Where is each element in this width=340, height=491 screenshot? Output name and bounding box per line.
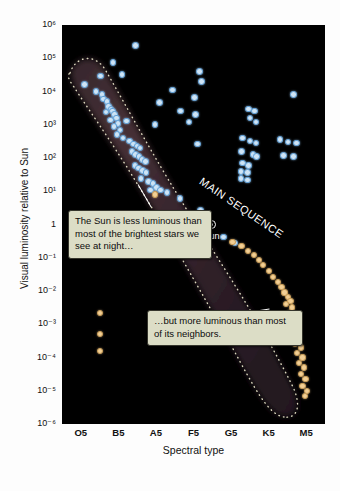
y-tick-1: 10¹ (16, 186, 56, 195)
star-point (245, 162, 252, 169)
star-point (290, 153, 297, 160)
star-point (290, 91, 297, 98)
star-point (229, 239, 235, 245)
x-axis-title: Spectral type (62, 444, 325, 456)
star-point (302, 376, 308, 382)
star-point (266, 268, 272, 274)
star-point (198, 78, 205, 85)
star-point (253, 153, 260, 160)
y-tick-3: 10³ (16, 120, 56, 129)
star-point (220, 234, 227, 241)
y-tick--6: 10⁻⁶ (16, 419, 56, 428)
star-point (132, 42, 139, 49)
star-point (123, 118, 130, 125)
y-tick--3: 10⁻³ (16, 319, 56, 328)
star-point (196, 68, 203, 75)
y-tick-6: 10⁶ (16, 20, 56, 29)
star-point (239, 135, 246, 142)
callout-sun-less-luminous: The Sun is less luminous than most of th… (68, 210, 212, 259)
star-point (302, 393, 308, 399)
star-point (138, 175, 145, 182)
y-tick--2: 10⁻² (16, 286, 56, 295)
hr-diagram-figure: Visual luminosity relative to Sun 10⁶10⁵… (0, 0, 340, 491)
star-point (110, 59, 117, 66)
x-tick-a5: A5 (136, 427, 176, 438)
x-tick-m5: M5 (286, 427, 326, 438)
star-point (191, 94, 198, 101)
star-point (238, 168, 245, 175)
star-point (97, 73, 104, 80)
star-point (152, 191, 158, 197)
y-tick-0: 1 (16, 220, 56, 229)
star-point (244, 169, 251, 176)
star-point (244, 177, 251, 184)
star-point (194, 141, 201, 148)
star-point (169, 87, 176, 94)
x-tick-f5: F5 (174, 427, 214, 438)
y-tick--1: 10⁻¹ (16, 253, 56, 262)
star-point (293, 140, 300, 147)
x-tick-g5: G5 (211, 427, 251, 438)
y-tick-4: 10⁴ (16, 87, 56, 96)
star-point (251, 108, 258, 115)
y-tick--5: 10⁻⁵ (16, 386, 56, 395)
star-point (81, 81, 88, 88)
star-point (142, 158, 149, 165)
star-point (277, 136, 284, 143)
y-tick-5: 10⁵ (16, 53, 56, 62)
star-point (157, 187, 164, 194)
star-point (238, 175, 245, 182)
callout-sun-more-luminous: …but more luminous than most of its neig… (147, 310, 303, 346)
y-tick--4: 10⁻⁴ (16, 353, 56, 362)
y-tick-2: 10² (16, 153, 56, 162)
star-point (280, 152, 287, 159)
star-point (301, 364, 307, 370)
x-tick-b5: B5 (98, 427, 138, 438)
star-point (238, 148, 245, 155)
star-point (177, 195, 184, 202)
x-tick-k5: K5 (249, 427, 289, 438)
star-point (156, 99, 163, 106)
x-tick-o5: O5 (61, 427, 101, 438)
